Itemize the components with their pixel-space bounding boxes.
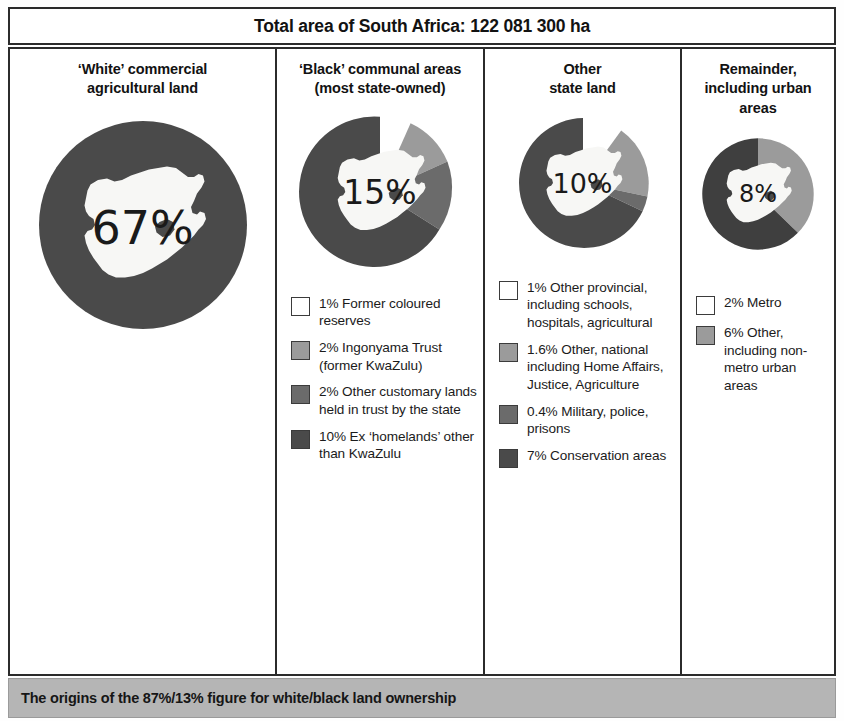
legend-item-label: 1% Former coloured reserves [319, 295, 477, 330]
legend-item[interactable]: 2% Ingonyama Trust (former KwaZulu) [291, 339, 477, 374]
legend-item-label: 1.6% Other, national including Home Affa… [527, 341, 674, 394]
legend-3: 2% Metro 6% Other, including non-metro u… [682, 294, 834, 395]
legend-swatch-icon [291, 430, 310, 449]
donut-chart-2-svg [513, 113, 653, 253]
donut-chart-1: 15% [299, 111, 461, 273]
legend-item-label: 7% Conservation areas [527, 447, 666, 465]
header-title-bar: Total area of South Africa: 122 081 300 … [8, 7, 836, 45]
legend-swatch-icon [499, 343, 518, 362]
column-heading-1-line2: (most state-owned) [314, 80, 445, 96]
donut-chart-2: 10% [513, 113, 653, 253]
donut-chart-1-svg [299, 111, 461, 273]
land-ownership-infographic: Total area of South Africa: 122 081 300 … [0, 0, 844, 721]
legend-item[interactable]: 0.4% Military, police, prisons [499, 403, 674, 438]
column-heading-0-line2: agricultural land [87, 80, 198, 96]
column-white-commercial: ‘White’ commercial agricultural land [10, 49, 277, 674]
column-heading-2: Other state land [485, 49, 680, 99]
column-black-communal: ‘Black’ communal areas (most state-owned… [277, 49, 485, 674]
donut-chart-3-svg [698, 134, 818, 254]
legend-item-label: 6% Other, including non-metro urban area… [724, 324, 828, 395]
legend-swatch-icon [499, 281, 518, 300]
legend-item-label: 0.4% Military, police, prisons [527, 403, 674, 438]
column-remainder-urban: Remainder, including urban areas [682, 49, 834, 674]
legend-item-label: 10% Ex ‘homelands’ other than KwaZulu [319, 428, 477, 463]
legend-swatch-icon [291, 341, 310, 360]
legend-swatch-icon [291, 297, 310, 316]
column-heading-2-line2: state land [549, 80, 616, 96]
legend-swatch-icon [499, 405, 518, 424]
legend-item[interactable]: 10% Ex ‘homelands’ other than KwaZulu [291, 428, 477, 463]
legend-1: 1% Former coloured reserves 2% Ingonyama… [277, 295, 483, 463]
footer-bar: The origins of the 87%/13% figure for wh… [8, 678, 836, 718]
donut-chart-3: 8% [698, 134, 818, 254]
legend-2: 1% Other provincial, including schools, … [485, 279, 680, 468]
legend-swatch-icon [499, 449, 518, 468]
column-heading-0-line1: ‘White’ commercial [78, 61, 208, 77]
legend-swatch-icon [696, 326, 715, 345]
column-heading-1-line1: ‘Black’ communal areas [299, 61, 461, 77]
chart-wrap-1: 15% [277, 111, 483, 273]
column-heading-0: ‘White’ commercial agricultural land [10, 49, 275, 99]
legend-item[interactable]: 2% Other customary lands held in trust b… [291, 383, 477, 418]
column-heading-3-line2: including urban areas [704, 80, 811, 115]
donut-chart-0-svg [31, 113, 255, 337]
legend-item[interactable]: 1% Other provincial, including schools, … [499, 279, 674, 332]
legend-item-label: 2% Ingonyama Trust (former KwaZulu) [319, 339, 477, 374]
legend-item-label: 1% Other provincial, including schools, … [527, 279, 674, 332]
chart-wrap-0: 67% [10, 113, 275, 337]
chart-wrap-3: 8% [682, 134, 834, 254]
column-heading-3-line1: Remainder, [719, 61, 796, 77]
donut-chart-0: 67% [31, 113, 255, 337]
column-heading-2-line1: Other [563, 61, 601, 77]
legend-item[interactable]: 1% Former coloured reserves [291, 295, 477, 330]
legend-item[interactable]: 1.6% Other, national including Home Affa… [499, 341, 674, 394]
column-other-state-land: Other state land [485, 49, 682, 674]
columns-container: ‘White’ commercial agricultural land [8, 47, 836, 676]
legend-item-label: 2% Other customary lands held in trust b… [319, 383, 477, 418]
legend-item[interactable]: 6% Other, including non-metro urban area… [696, 324, 828, 395]
legend-swatch-icon [696, 296, 715, 315]
page-title: Total area of South Africa: 122 081 300 … [254, 16, 590, 37]
column-heading-3: Remainder, including urban areas [682, 49, 834, 118]
legend-swatch-icon [291, 385, 310, 404]
legend-item-label: 2% Metro [724, 294, 781, 312]
footer-caption: The origins of the 87%/13% figure for wh… [9, 690, 456, 706]
column-heading-1: ‘Black’ communal areas (most state-owned… [277, 49, 483, 99]
legend-item[interactable]: 2% Metro [696, 294, 828, 315]
legend-item[interactable]: 7% Conservation areas [499, 447, 674, 468]
chart-wrap-2: 10% [485, 113, 680, 253]
